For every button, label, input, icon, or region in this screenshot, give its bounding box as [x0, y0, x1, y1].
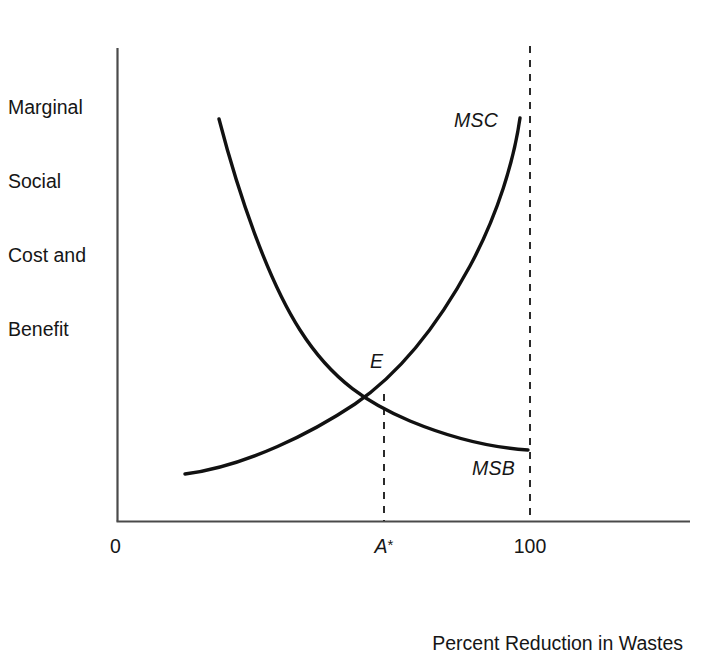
y-axis-title-line-2: Social — [8, 169, 86, 194]
equilibrium-point-label: E — [370, 352, 383, 372]
y-axis-title-line-4: Benefit — [8, 317, 86, 342]
x-axis-title-line-1: Percent Reduction in Wastes — [283, 631, 683, 655]
x-tick-a-star: A* — [360, 537, 408, 557]
y-axis-title-line-1: Marginal — [8, 95, 86, 120]
y-axis-title: Marginal Social Cost and Benefit — [8, 46, 86, 390]
economics-diagram: Marginal Social Cost and Benefit Percent… — [0, 0, 718, 655]
y-axis-title-line-3: Cost and — [8, 243, 86, 268]
x-tick-hundred: 100 — [503, 537, 557, 557]
origin-label: 0 — [110, 537, 121, 557]
x-tick-a-star-superscript: * — [388, 536, 394, 553]
plot-canvas — [0, 0, 718, 655]
msc-curve-label: MSC — [454, 111, 498, 131]
msb-curve-label: MSB — [472, 459, 515, 479]
x-tick-a-star-letter: A — [375, 535, 388, 557]
msb-curve — [219, 119, 528, 450]
x-axis-title: Percent Reduction in Wastes Emitted per … — [283, 581, 683, 655]
